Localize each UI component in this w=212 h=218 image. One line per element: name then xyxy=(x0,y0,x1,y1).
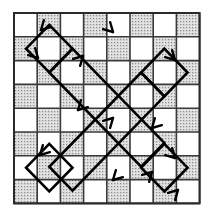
board-cell-shaded xyxy=(176,13,199,37)
figure-container xyxy=(0,0,212,218)
board-cell-shaded xyxy=(176,108,199,132)
board-cell-shaded xyxy=(14,84,37,108)
board-cell-shaded xyxy=(130,13,153,37)
board-cell-shaded xyxy=(84,13,107,37)
checkerboard-tour-diagram xyxy=(0,0,212,218)
board-cell-shaded xyxy=(14,180,37,204)
board-cell-shaded xyxy=(37,108,60,132)
board-cell-shaded xyxy=(14,132,37,156)
board-cell-shaded xyxy=(107,37,130,61)
board-cell-shaded xyxy=(107,180,130,204)
